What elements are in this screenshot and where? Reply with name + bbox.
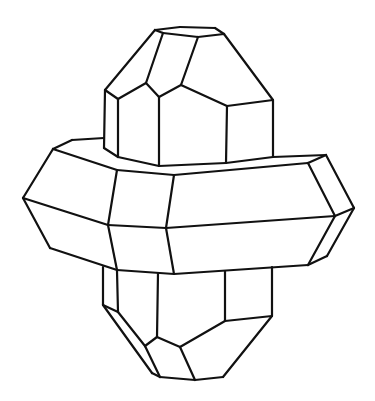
crystal-edge — [166, 228, 174, 274]
crystal-edge — [181, 85, 227, 106]
crystal-edge — [105, 90, 118, 99]
crystal-edge — [118, 157, 159, 166]
crystal-edge — [118, 83, 146, 99]
crystal-edge — [180, 27, 215, 28]
central-band — [23, 149, 354, 274]
crystal-edge — [145, 337, 157, 346]
crystal-edge — [104, 148, 118, 157]
crystal-edge — [108, 170, 117, 225]
crystal-drawing — [0, 0, 375, 401]
crystal-edge — [23, 149, 53, 198]
crystal-edge — [166, 175, 174, 228]
crystal-edge — [108, 225, 166, 228]
crystal-edge — [103, 305, 152, 373]
crystal-edge — [118, 312, 145, 346]
crystal-edge — [159, 85, 181, 97]
crystal-edge — [159, 163, 226, 166]
crystal-edge — [157, 273, 158, 337]
crystal-edge — [198, 34, 224, 37]
crystal-edge — [174, 265, 308, 274]
crystal-edge — [163, 33, 198, 37]
crystal-edge — [225, 316, 272, 321]
crystal-edge — [117, 170, 174, 175]
crystal-edge — [166, 216, 335, 228]
crystal-diagram — [0, 0, 375, 401]
crystal-edge — [53, 149, 117, 170]
crystal-edge — [180, 347, 195, 380]
crystal-edge — [181, 37, 198, 85]
upper-prism — [53, 27, 326, 166]
crystal-edge — [50, 248, 117, 270]
crystal-edge — [155, 30, 163, 33]
crystal-edge — [53, 140, 72, 149]
crystal-edge — [72, 138, 104, 140]
crystal-edge — [117, 271, 118, 312]
crystal-edge — [160, 377, 195, 380]
lower-prism — [103, 265, 308, 380]
crystal-edge — [326, 155, 354, 208]
crystal-edge — [155, 27, 180, 30]
crystal-edge — [273, 155, 326, 157]
crystal-edge — [223, 316, 272, 377]
crystal-edge — [146, 33, 163, 83]
crystal-edge — [226, 106, 227, 163]
crystal-edge — [180, 321, 225, 347]
crystal-edge — [195, 377, 223, 380]
crystal-edge — [104, 90, 105, 148]
crystal-edge — [117, 270, 174, 274]
crystal-edge — [227, 100, 273, 106]
crystal-edge — [108, 225, 117, 270]
crystal-edge — [157, 337, 180, 347]
crystal-edge — [226, 157, 273, 163]
crystal-edge — [146, 83, 159, 97]
crystal-edge — [224, 34, 273, 100]
crystal-edge — [308, 163, 335, 216]
